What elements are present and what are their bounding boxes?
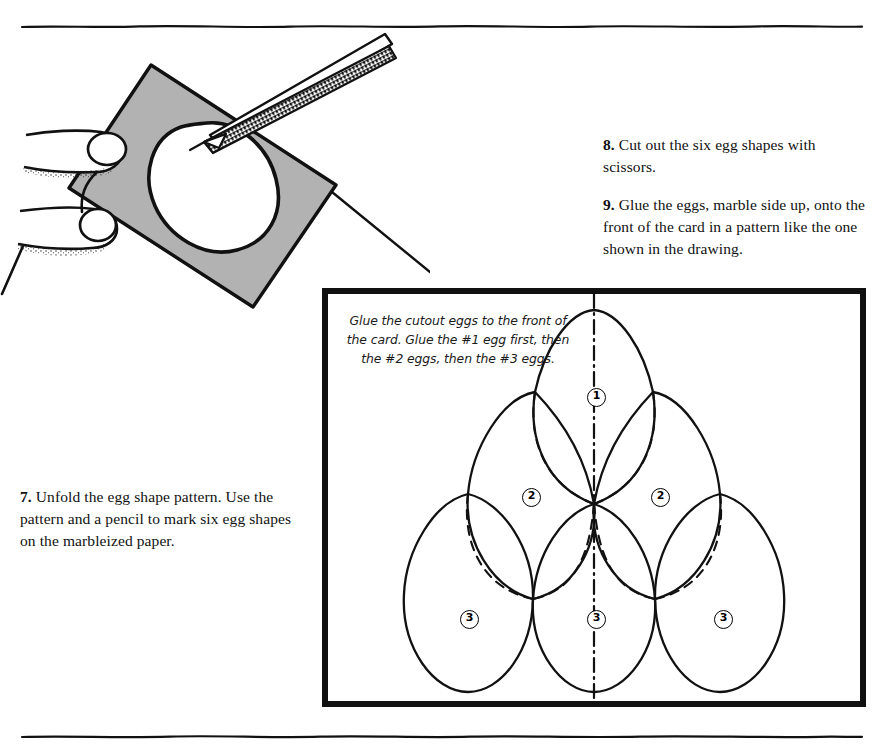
egg-badge-1: 1: [587, 388, 606, 407]
hand-cutting-paper-illustration: [0, 22, 430, 322]
step-text: Cut out the six egg shapes with scissors…: [603, 136, 816, 175]
egg-badge-3-center: 3: [587, 610, 606, 629]
upper-finger: [23, 131, 126, 179]
background-edge-line: [332, 192, 430, 272]
step-number: 7.: [20, 488, 32, 505]
step-text: Glue the eggs, marble side up, onto the …: [603, 196, 865, 257]
instruction-step-7: 7. Unfold the egg shape pattern. Use the…: [20, 486, 310, 552]
fingernail-lower: [80, 209, 116, 241]
instruction-step-8: 8. Cut out the six egg shapes with sciss…: [603, 134, 871, 178]
card-front-egg-layout-diagram: Glue the cutout eggs to the front of the…: [322, 288, 866, 707]
lower-finger: [17, 208, 117, 256]
fingernail-upper: [88, 133, 126, 165]
egg-badge-2-right: 2: [651, 488, 670, 507]
scissors: [190, 34, 396, 153]
step-number: 9.: [603, 196, 615, 213]
scissors-blade-lower: [204, 46, 396, 153]
egg-badge-2-left: 2: [522, 488, 541, 507]
step-number: 8.: [603, 136, 615, 153]
egg-badge-3-right: 3: [714, 610, 733, 629]
bottom-divider-rule: [0, 728, 883, 738]
step-text: Unfold the egg shape pattern. Use the pa…: [20, 488, 291, 549]
instruction-step-9: 9. Glue the eggs, marble side up, onto t…: [603, 194, 875, 260]
page-root: 7. Unfold the egg shape pattern. Use the…: [0, 0, 883, 756]
egg-badge-3-left: 3: [460, 610, 479, 629]
